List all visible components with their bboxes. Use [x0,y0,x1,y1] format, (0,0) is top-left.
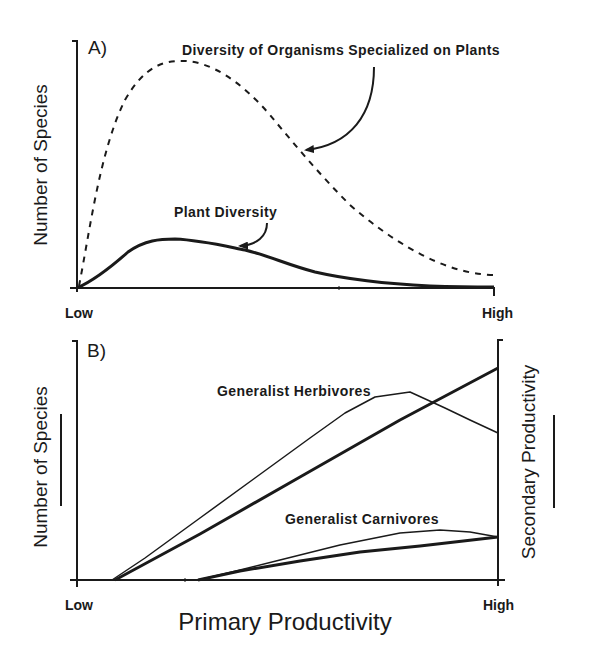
panel-a-x-axis [70,288,494,296]
panel-a: A) Number of Species Low High Diversity … [30,37,513,321]
panel-a-x-low-label: Low [65,305,93,321]
panel-b-y2-axis-label: Secondary Productivity [518,364,539,559]
specialists-annotation-label: Diversity of Organisms Specialized on Pl… [182,42,500,58]
panel-a-y-axis-label: Number of Species [30,84,51,246]
panel-b-x-low-label: Low [65,597,93,613]
panel-b-x-axis-title: Primary Productivity [178,608,391,635]
plant-diversity-annotation-label: Plant Diversity [174,204,277,220]
panel-b-y-axis-label: Number of Species [30,386,51,548]
figure-canvas: A) Number of Species Low High Diversity … [0,0,591,664]
panel-b-left-axis [72,341,77,587]
panel-b-right-axis [498,340,503,586]
panel-b-label: B) [87,340,106,361]
plant-diversity-annotation-arrow [240,223,267,246]
herbivores-annotation-label: Generalist Herbivores [217,383,371,399]
herbivores-productivity-line [115,368,498,580]
panel-b: B) Number of Species Secondary Productiv… [30,340,554,635]
panel-a-y-axis [72,41,77,292]
specialists-annotation-arrow [306,67,374,150]
specialists-diversity-curve [79,61,494,286]
carnivores-annotation-label: Generalist Carnivores [285,511,439,527]
panel-a-x-high-label: High [482,305,513,321]
panel-b-x-high-label: High [483,597,514,613]
panel-a-label: A) [88,37,107,58]
plant-diversity-curve [77,239,494,288]
